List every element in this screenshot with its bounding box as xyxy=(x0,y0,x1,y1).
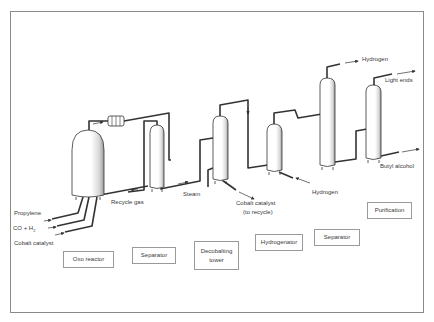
pipe-co-h2 xyxy=(57,197,89,226)
pipe-separator-to-decobalting xyxy=(160,138,213,189)
label-cobalt-catalyst-in: Cobalt catalyst xyxy=(14,240,53,247)
pipe-propylene xyxy=(52,197,83,219)
label-propylene: Propylene xyxy=(14,210,41,217)
label-cobalt-catalyst-out: Cobalt catalyst xyxy=(236,200,275,207)
label-butyl-alcohol: Butyl alcohol xyxy=(380,163,414,170)
pipe-steam xyxy=(208,168,213,187)
label-to-recycle: (to recycle) xyxy=(243,209,273,216)
label-hydrogen-in: Hydrogen xyxy=(312,189,338,196)
pipe-cobalt-out xyxy=(222,180,236,190)
unit-box-separator-2: Separator xyxy=(314,229,360,246)
pipe-separator-to-purification xyxy=(335,129,367,162)
unit-box-decobalting-tower: Decobalting tower xyxy=(194,241,239,270)
unit-box-oxo-reactor: Oxo reactor xyxy=(63,251,114,268)
pipe-hydrogen-out xyxy=(327,64,340,79)
unit-box-purification: Purification xyxy=(367,202,412,219)
unit-box-hydrogenator: Hydrogenator xyxy=(255,234,303,251)
pipe-reactor-to-exchanger xyxy=(89,121,108,130)
label-co-h2-subscript: 2 xyxy=(33,228,35,233)
pipe-hydrogenator-to-separator xyxy=(274,110,322,125)
pipe-hydrogen-in xyxy=(279,172,293,178)
process-flow-diagram xyxy=(0,0,434,322)
pipe-butyl-alcohol xyxy=(381,152,399,156)
label-co-h2-text: CO + H xyxy=(13,225,33,231)
vessel-decobalting-tower xyxy=(213,116,228,181)
vessel-purification xyxy=(366,85,381,160)
vessel-hydrogenator xyxy=(267,124,282,172)
unit-box-decobalting-line1: Decobalting xyxy=(201,247,233,256)
label-hydrogen-out: Hydrogen xyxy=(362,56,388,63)
vessel-separator-2 xyxy=(320,78,335,167)
label-recycle-gas: Recycle gas xyxy=(111,199,144,206)
unit-box-decobalting-line2: tower xyxy=(209,256,224,265)
unit-box-separator-1: Separator xyxy=(132,247,176,264)
label-steam: Steam xyxy=(183,191,200,198)
vessel-separator-1 xyxy=(150,125,164,189)
label-light-ends: Light ends xyxy=(385,77,413,84)
label-co-h2: CO + H2 xyxy=(13,225,35,234)
heat-exchanger xyxy=(108,116,124,126)
vessel-oxo-reactor xyxy=(72,130,104,197)
